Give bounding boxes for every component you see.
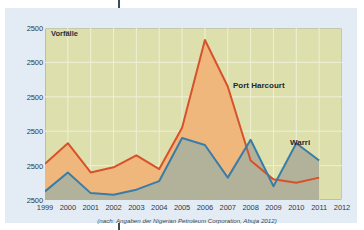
figure-page: Vorfälle Port Harcourt Warri 25002500250… (0, 0, 364, 230)
x-axis-labels: 1999200020012002200320042005200620072008… (5, 203, 364, 215)
figure-panel: Vorfälle Port Harcourt Warri 25002500250… (5, 8, 357, 223)
y-axis-tick-label: 2500 (9, 58, 43, 67)
y-axis-labels: 250025002500250025002500 (5, 8, 43, 230)
y-axis-tick-label: 2500 (9, 93, 43, 102)
x-axis-tick-label: 2012 (329, 203, 355, 212)
y-axis-title: Vorfälle (51, 29, 78, 38)
y-axis-tick-label: 2500 (9, 127, 43, 136)
series-label-port-harcourt: Port Harcourt (233, 81, 285, 90)
source-caption: (nach: Angaben der Nigerian Petroleum Co… (5, 217, 364, 224)
chart-svg (45, 28, 342, 200)
y-axis-tick-label: 2500 (9, 24, 43, 33)
y-axis-tick-label: 2500 (9, 162, 43, 171)
series-label-warri: Warri (290, 138, 310, 147)
